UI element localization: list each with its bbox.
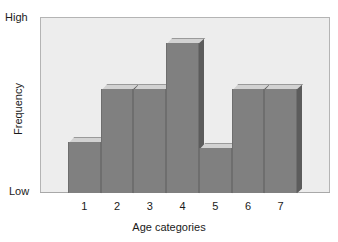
x-tick-2: 2 [101, 200, 134, 214]
bar-category-4 [166, 43, 199, 193]
x-tick-5: 5 [199, 200, 232, 214]
bar-front-face [166, 43, 199, 193]
bar-front-face [133, 89, 166, 193]
bar-front-face [232, 89, 265, 193]
bar-front-face [101, 89, 134, 193]
x-tick-7: 7 [264, 200, 297, 214]
bar-chart: High Low Frequency [0, 0, 338, 242]
bar-category-1 [68, 142, 101, 193]
bar-front-face [264, 89, 297, 193]
bar-front-face [68, 142, 101, 193]
bar-category-6 [232, 89, 265, 193]
x-axis-title: Age categories [0, 221, 338, 233]
x-axis-tick-labels: 1 2 3 4 5 6 7 [68, 200, 297, 214]
x-tick-4: 4 [166, 200, 199, 214]
bar-category-2 [101, 89, 134, 193]
x-tick-3: 3 [133, 200, 166, 214]
x-tick-1: 1 [68, 200, 101, 214]
bar-category-5 [199, 148, 232, 193]
bar-side-face [297, 85, 302, 194]
bar-category-7 [264, 89, 297, 193]
bar-front-face [199, 148, 232, 193]
x-tick-6: 6 [232, 200, 265, 214]
bar-category-3 [133, 89, 166, 193]
